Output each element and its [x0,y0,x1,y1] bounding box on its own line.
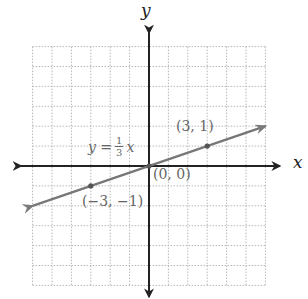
point-label-origin: (0, 0) [153,166,191,182]
data-point [205,144,210,149]
equation-label: y = 1 3 x [88,132,134,162]
data-point [146,163,151,168]
point-label-3-1: (3, 1) [176,118,214,134]
plot-area [0,0,308,299]
x-axis-label: x [293,152,303,172]
y-axis-label: y [141,0,151,20]
point-label-neg3-neg1: (−3, −1) [82,193,143,209]
fraction-denominator: 3 [116,147,122,158]
data-point [88,183,93,188]
equation-fraction: 1 3 [115,136,123,158]
equation-var: x [126,139,134,155]
coordinate-plane-figure: y x (3, 1) (0, 0) (−3, −1) y = 1 3 x [0,0,308,299]
fraction-numerator: 1 [115,136,123,147]
equation-lhs: y = [88,139,112,155]
